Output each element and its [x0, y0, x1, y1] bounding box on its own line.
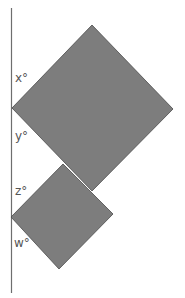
angle-x-label: x°	[15, 71, 28, 85]
angle-z-label: z°	[15, 184, 27, 198]
large-square	[12, 25, 173, 191]
geometry-diagram: x° y° z° w°	[0, 0, 185, 298]
angle-w-label: w°	[14, 236, 30, 250]
angle-y-label: y°	[15, 129, 28, 143]
diagram-canvas: x° y° z° w°	[0, 0, 185, 298]
